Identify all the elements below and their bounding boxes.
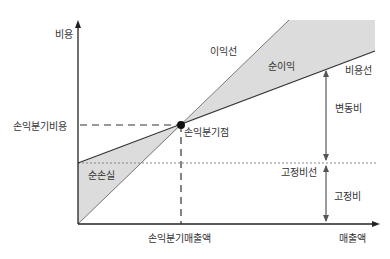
cost-line-label: 비용선 <box>345 65 372 76</box>
bep-point-label: 손익분기점 <box>184 127 229 138</box>
cost-line <box>78 51 375 163</box>
loss-area-label: 순손실 <box>88 170 115 181</box>
fixed-cost-line-label: 고정비선 <box>281 167 317 178</box>
y-axis-label: 비용 <box>55 29 73 40</box>
revenue-line-label: 이익선 <box>210 46 237 57</box>
variable-cost-label: 변동비 <box>335 103 362 114</box>
x-axis-label: 매출액 <box>339 233 366 244</box>
profit-area-label: 순이익 <box>268 61 295 72</box>
fixed-cost-label: 고정비 <box>334 191 361 202</box>
break-even-chart: 비용 매출액 이익선 순이익 비용선 변동비 손익분기비용 손익분기점 순손실 … <box>0 0 390 259</box>
bep-cost-label: 손익분기비용 <box>13 121 67 132</box>
bep-sales-label: 손익분기매출액 <box>148 233 211 244</box>
